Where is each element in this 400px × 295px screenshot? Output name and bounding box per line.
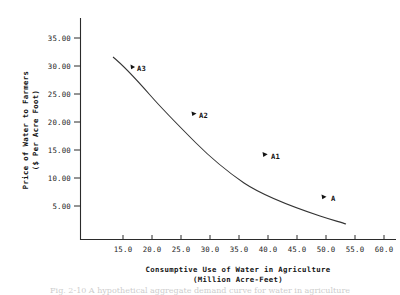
x-axis-title-line1: Consumptive Use of Water in Agriculture xyxy=(146,265,331,274)
x-tick-label-45: 45.0 xyxy=(288,245,307,254)
point-label-A1: A1 xyxy=(271,152,280,161)
y-tick-label-30: 30.00 xyxy=(48,62,71,71)
demand-curve-chart: 35.00 30.00 25.00 20.00 15.00 10.00 5.00… xyxy=(0,0,400,295)
marker-A1 xyxy=(263,152,268,157)
demand-curve-line xyxy=(113,57,346,224)
figure-caption: Fig. 2-10 A hypothetical aggregate deman… xyxy=(0,286,400,295)
y-tick-label-20: 20.00 xyxy=(48,118,71,127)
x-tick-label-50: 50.0 xyxy=(317,245,336,254)
x-tick-label-55: 55.0 xyxy=(346,245,365,254)
y-axis-title-line2: ($ Per Acre Foot) xyxy=(31,90,40,171)
x-tick-label-60: 60.0 xyxy=(375,245,394,254)
data-point-markers xyxy=(131,65,327,200)
x-tick-label-30: 30.0 xyxy=(201,245,220,254)
x-tick-label-15: 15.0 xyxy=(114,245,133,254)
y-tick-label-25: 25.00 xyxy=(48,90,71,99)
point-label-A: A xyxy=(331,194,336,203)
marker-A3 xyxy=(131,65,136,70)
point-label-A2: A2 xyxy=(199,111,208,120)
x-tick-label-40: 40.0 xyxy=(259,245,278,254)
y-axis-title-line1: Price of Water to Farmers xyxy=(21,71,30,190)
y-tick-label-15: 15.00 xyxy=(48,146,71,155)
x-tick-label-20: 20.0 xyxy=(143,245,162,254)
x-axis-ticks xyxy=(123,235,384,240)
marker-A2 xyxy=(192,112,197,117)
y-tick-label-5: 5.00 xyxy=(52,202,71,211)
y-tick-label-35: 35.00 xyxy=(48,34,71,43)
figure-container: 35.00 30.00 25.00 20.00 15.00 10.00 5.00… xyxy=(0,0,400,295)
point-label-A3: A3 xyxy=(137,64,146,73)
y-axis-ticks xyxy=(74,38,81,206)
marker-A xyxy=(322,195,327,200)
x-axis-title-line2: (Million Acre-Feet) xyxy=(193,275,283,284)
x-tick-label-25: 25.0 xyxy=(172,245,191,254)
y-tick-label-10: 10.00 xyxy=(48,174,71,183)
x-tick-label-35: 35.0 xyxy=(230,245,249,254)
